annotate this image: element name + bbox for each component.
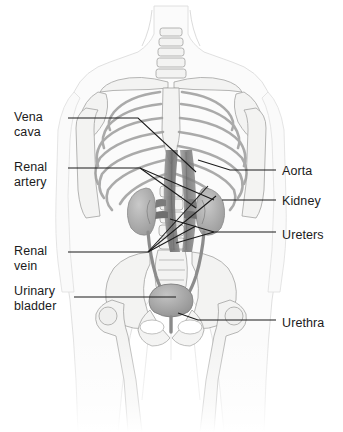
label-kidney: Kidney — [282, 194, 321, 209]
label-urinary-bladder: Urinary bladder — [14, 284, 56, 313]
label-layer: Vena cava Renal artery Renal vein Urinar… — [0, 0, 343, 432]
anatomy-figure: Vena cava Renal artery Renal vein Urinar… — [0, 0, 343, 432]
label-renal-vein: Renal vein — [14, 244, 47, 273]
label-renal-artery: Renal artery — [14, 160, 47, 189]
label-aorta: Aorta — [282, 164, 312, 179]
label-ureters: Ureters — [282, 228, 324, 243]
label-urethra: Urethra — [282, 316, 324, 331]
label-vena-cava: Vena cava — [14, 110, 43, 139]
